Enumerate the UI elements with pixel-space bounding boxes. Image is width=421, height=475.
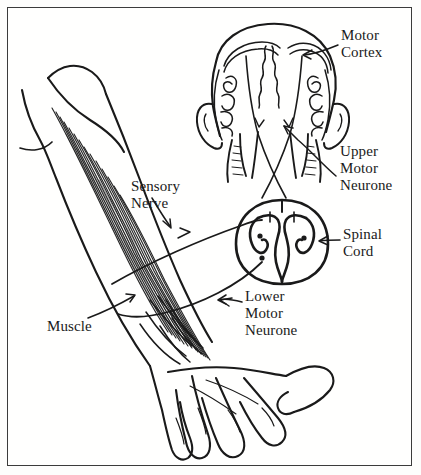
spinal-cord-cross-section xyxy=(236,200,328,284)
label-lower-motor-neurone: Lower Motor Neurone xyxy=(245,288,297,338)
label-sensory-nerve: Sensory Nerve xyxy=(131,178,180,212)
upper-motor-neurone-tract xyxy=(246,56,302,198)
cerebral-cortex-gyri xyxy=(214,42,331,140)
label-spinal-cord: Spinal Cord xyxy=(343,226,382,260)
label-upper-motor-neurone: Upper Motor Neurone xyxy=(340,143,392,193)
label-motor-cortex: Motor Cortex xyxy=(341,27,382,61)
hand xyxy=(150,366,333,460)
head-coronal-section xyxy=(212,24,336,136)
anatomical-figure: Motor Cortex Upper Motor Neurone Spinal … xyxy=(0,0,421,475)
lower-motor-neurone-pathway xyxy=(118,262,262,317)
label-muscle: Muscle xyxy=(47,318,92,335)
